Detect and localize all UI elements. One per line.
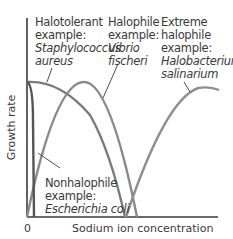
annotation-halophile: Halophile example: Vibrio fischeri <box>108 16 159 68</box>
y-axis-label: Growth rate <box>5 93 18 163</box>
x-tick-zero: 0 <box>24 222 31 235</box>
x-axis-label: Sodium ion concentration <box>72 222 213 235</box>
label-line: Escherichia coli <box>45 202 129 216</box>
label-line: aureus <box>35 54 73 68</box>
curve-extreme-halophile <box>126 87 219 217</box>
label-line: fischeri <box>108 54 147 68</box>
label-line: Halobacterium <box>161 54 233 68</box>
label-line: Vibrio <box>108 41 140 55</box>
annotation-extreme-halophile: Extreme halophile example: Halobacterium… <box>161 16 233 81</box>
label-line: salinarium <box>161 67 218 81</box>
annotation-nonhalophile: Nonhalophile example: Escherichia coli <box>45 177 129 216</box>
